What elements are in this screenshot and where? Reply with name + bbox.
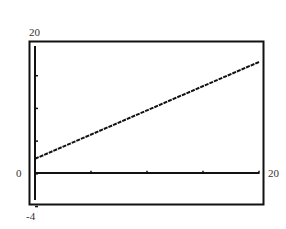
calculator-graph [0,0,286,229]
plot-line [35,62,259,159]
graph-frame [30,42,264,205]
axis-ticks [35,76,259,207]
